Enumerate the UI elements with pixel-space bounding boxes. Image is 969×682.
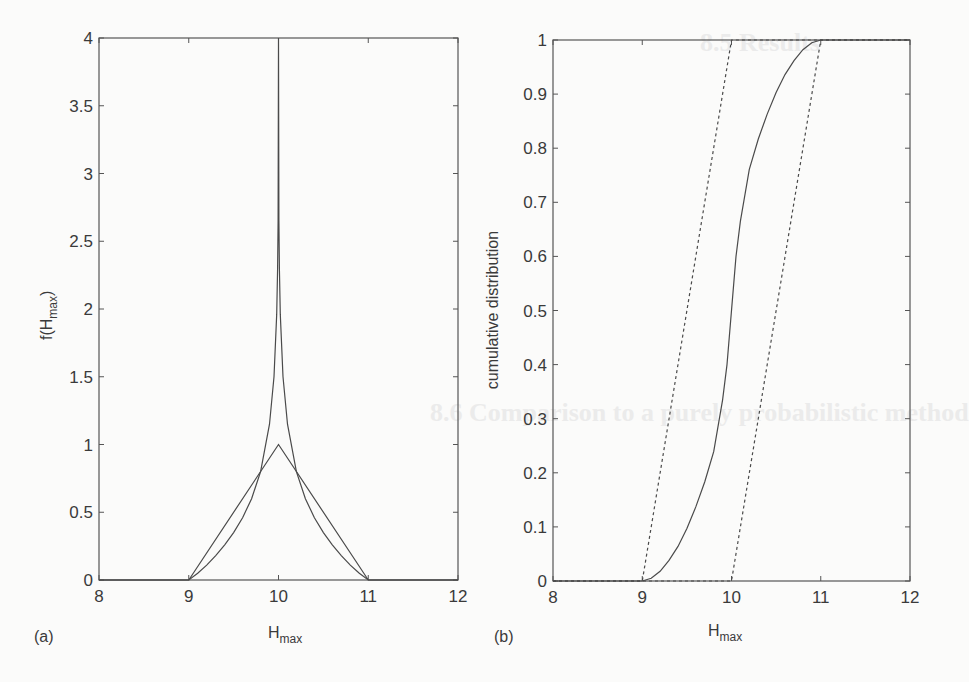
log-singular-pdf-line [99,38,458,580]
y-tick-label: 3 [84,165,93,184]
panel-a-pdf-plot: 8910111200.511.522.533.54 Hmax f(Hmax) (… [34,29,467,646]
y-tick-label: 0 [84,571,93,590]
y-tick-label: 2 [84,300,93,319]
y-tick-label: 1 [538,31,547,50]
y-tick-label: 0 [538,572,547,591]
y-tick-label: 0.5 [69,503,93,522]
panel-b-cdf-plot: 8910111200.10.20.30.40.50.60.70.80.91 Hm… [484,31,919,645]
x-tick-label: 9 [638,588,647,607]
y-tick-label: 0.9 [523,85,547,104]
y-tick-label: 0.3 [523,410,547,429]
y-tick-label: 1.5 [69,368,93,387]
data-series [553,40,910,581]
y-axis-label: f(Hmax) [38,291,60,340]
y-axis-label: cumulative distribution [484,231,501,389]
x-axis-label: Hmax [708,622,742,644]
data-series [99,38,458,580]
y-tick-label: 1 [84,436,93,455]
y-tick-label: 4 [84,29,93,48]
y-tick-label: 3.5 [69,97,93,116]
y-tick-label: 0.5 [523,302,547,321]
x-tick-label: 8 [94,587,103,606]
axis-ticks: 8910111200.511.522.533.54 [69,29,467,606]
y-tick-label: 0.2 [523,464,547,483]
x-tick-label: 10 [269,587,288,606]
y-tick-label: 2.5 [69,232,93,251]
x-tick-label: 12 [449,587,468,606]
y-tick-label: 0.1 [523,518,547,537]
y-tick-label: 0.4 [523,356,547,375]
x-tick-label: 11 [359,587,377,606]
panel-label-b: (b) [494,628,514,645]
x-tick-label: 8 [548,588,557,607]
triangular-pdf-line [99,445,458,581]
y-tick-label: 0.8 [523,139,547,158]
y-tick-label: 0.6 [523,247,547,266]
x-tick-label: 10 [722,588,741,607]
x-tick-label: 11 [812,588,830,607]
x-tick-label: 12 [901,588,920,607]
x-tick-label: 9 [184,587,193,606]
axis-ticks: 8910111200.10.20.30.40.50.60.70.80.91 [523,31,919,607]
x-axis-label: Hmax [268,624,302,646]
cdf-line [553,40,910,581]
panel-label-a: (a) [34,628,54,645]
y-tick-label: 0.7 [523,193,547,212]
